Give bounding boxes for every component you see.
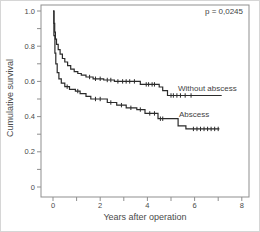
y-tick-label: 0.8 <box>25 42 35 51</box>
x-tick-label: 4 <box>145 201 149 210</box>
curve-label-without-abscess: Without abscess <box>178 84 237 93</box>
plot-frame <box>41 5 249 197</box>
survival-curve-0 <box>53 11 222 96</box>
x-tick-label: 6 <box>193 201 197 210</box>
x-tick-label: 0 <box>51 201 55 210</box>
km-survival-figure: 1.00.80.60.40.2002468 p = 0,0245 Without… <box>0 0 260 232</box>
y-tick-label: 0.2 <box>25 147 35 156</box>
x-tick-label: 2 <box>98 201 102 210</box>
y-tick-label: 0.6 <box>25 77 35 86</box>
km-plot-canvas: 1.00.80.60.40.2002468 <box>1 1 260 232</box>
y-tick-label: 0 <box>31 183 35 192</box>
p-value-annotation: p = 0,0245 <box>205 7 243 16</box>
x-axis-title: Years after operation <box>41 212 249 222</box>
y-axis-title: Cumulative survival <box>5 59 15 137</box>
y-tick-label: 0.4 <box>25 112 35 121</box>
x-tick-label: 8 <box>240 201 244 210</box>
y-tick-label: 1.0 <box>25 7 35 16</box>
curve-label-abscess: Abscess <box>179 110 209 119</box>
